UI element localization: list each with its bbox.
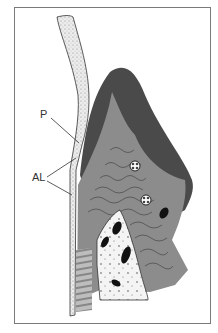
periodontal-ligament (76, 248, 92, 312)
anatomical-diagram (0, 0, 218, 333)
label-al: AL (32, 172, 45, 183)
label-p: P (40, 109, 47, 120)
